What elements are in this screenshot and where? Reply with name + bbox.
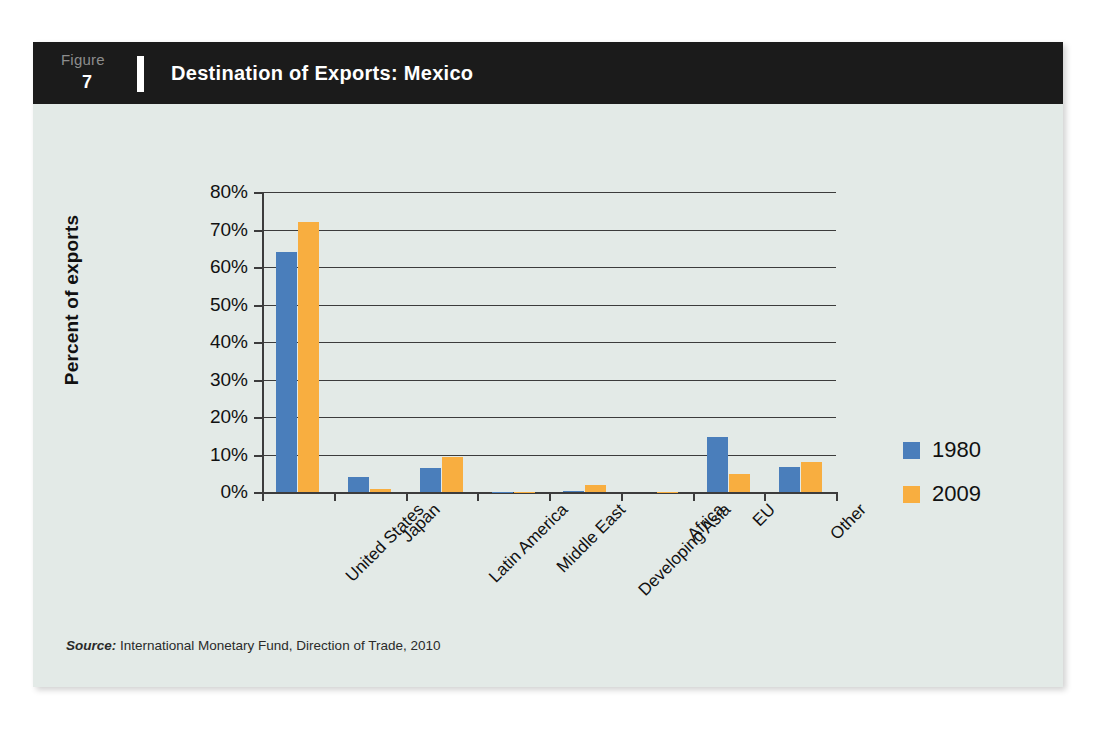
- x-tick: [621, 492, 623, 501]
- y-tick-label: 60%: [210, 256, 248, 278]
- gridline: [262, 305, 836, 306]
- y-tick: [254, 342, 263, 344]
- x-tick: [549, 492, 551, 501]
- y-tick: [254, 305, 263, 307]
- header-divider-bar: [137, 56, 144, 92]
- x-tick: [406, 492, 408, 501]
- y-tick-label: 70%: [210, 219, 248, 241]
- gridline: [262, 380, 836, 381]
- legend-swatch-2009: [903, 486, 920, 503]
- y-tick-label: 0%: [221, 481, 248, 503]
- x-category-label: EU: [749, 500, 780, 531]
- bar-2009-eu: [729, 474, 750, 492]
- y-tick-label: 80%: [210, 181, 248, 203]
- y-tick: [254, 417, 263, 419]
- figure-card: Figure 7 Destination of Exports: Mexico …: [33, 42, 1063, 687]
- y-tick-label: 20%: [210, 406, 248, 428]
- bar-2009-united-states: [298, 222, 319, 492]
- y-tick-label: 30%: [210, 369, 248, 391]
- x-tick: [693, 492, 695, 501]
- legend-item[interactable]: 2009: [903, 481, 981, 507]
- bar-1980-other: [779, 467, 800, 493]
- gridline: [262, 192, 836, 193]
- bar-1980-united-states: [276, 252, 297, 492]
- y-tick-label: 10%: [210, 444, 248, 466]
- source-prefix: Source:: [66, 638, 116, 653]
- x-tick: [836, 492, 838, 501]
- x-category-label: Latin America: [486, 500, 573, 587]
- x-tick: [477, 492, 479, 501]
- page-root: Figure 7 Destination of Exports: Mexico …: [0, 0, 1096, 741]
- bar-2009-latin-america: [442, 457, 463, 492]
- y-tick-label: 50%: [210, 294, 248, 316]
- legend-label: 2009: [932, 481, 981, 507]
- bar-1980-developing-asia: [563, 491, 584, 493]
- y-tick-label: 40%: [210, 331, 248, 353]
- bar-2009-japan: [370, 489, 391, 492]
- y-axis-title: Percent of exports: [61, 185, 83, 415]
- bar-1980-japan: [348, 477, 369, 492]
- page-title: Destination of Exports: Mexico: [171, 62, 473, 85]
- source-note: Source: International Monetary Fund, Dir…: [66, 638, 440, 653]
- chart-area: Percent of exports 0%10%20%30%40%50%60%7…: [33, 104, 1063, 687]
- bar-1980-latin-america: [420, 468, 441, 492]
- bar-2009-other: [801, 462, 822, 492]
- legend-item[interactable]: 1980: [903, 437, 981, 463]
- gridline: [262, 267, 836, 268]
- y-tick: [254, 455, 263, 457]
- y-tick: [254, 380, 263, 382]
- gridline: [262, 417, 836, 418]
- figure-number: 7: [82, 72, 92, 93]
- figure-header: Figure 7 Destination of Exports: Mexico: [33, 42, 1063, 104]
- gridline: [262, 342, 836, 343]
- source-text: International Monetary Fund, Direction o…: [116, 638, 440, 653]
- gridline: [262, 455, 836, 456]
- bar-2009-developing-asia: [585, 485, 606, 492]
- bar-1980-eu: [707, 437, 728, 493]
- plot-area: 0%10%20%30%40%50%60%70%80% United States…: [262, 192, 836, 492]
- y-tick: [254, 230, 263, 232]
- x-tick: [334, 492, 336, 501]
- legend: 19802009: [903, 437, 981, 525]
- legend-swatch-1980: [903, 442, 920, 459]
- x-tick: [262, 492, 264, 501]
- legend-label: 1980: [932, 437, 981, 463]
- y-tick: [254, 267, 263, 269]
- figure-number-block: Figure 7: [33, 42, 133, 104]
- y-tick: [254, 192, 263, 194]
- x-category-label: Other: [827, 500, 871, 544]
- gridline: [262, 230, 836, 231]
- figure-label: Figure: [61, 51, 105, 68]
